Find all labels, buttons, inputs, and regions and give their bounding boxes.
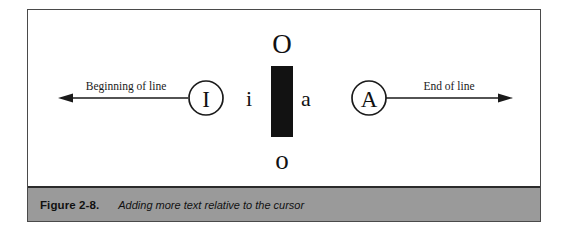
figure-caption-label: Figure 2-8. — [40, 199, 99, 211]
cursor-block — [271, 66, 293, 137]
right-arrow-group — [386, 94, 513, 103]
command-letter-a: A — [361, 87, 378, 112]
left-arrow-label: Beginning of line — [86, 80, 167, 93]
figure-frame: Beginning of line I O i a o A End — [27, 9, 541, 222]
right-arrowhead — [498, 94, 513, 103]
figure-caption-text: Adding more text relative to the cursor — [118, 199, 304, 211]
left-arrow-group — [58, 94, 188, 103]
glyph-below-cursor: o — [275, 145, 289, 175]
diagram-illustration: Beginning of line I O i a o A End — [28, 10, 540, 187]
glyph-right-of-cursor: a — [301, 86, 311, 111]
figure-caption-bar: Figure 2-8. Adding more text relative to… — [28, 186, 540, 221]
glyph-left-of-cursor: i — [246, 86, 252, 111]
glyph-above-cursor: O — [272, 29, 292, 59]
command-badge-a: A — [352, 81, 386, 115]
left-arrowhead — [58, 94, 73, 103]
right-arrow-label: End of line — [423, 80, 474, 92]
command-letter-i: I — [202, 87, 210, 112]
command-badge-i: I — [189, 81, 223, 115]
